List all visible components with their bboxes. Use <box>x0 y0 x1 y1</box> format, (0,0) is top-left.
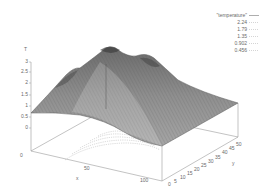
z-tick-2.5: 2.5 <box>21 68 28 74</box>
legend-entry-contour-2: 1.79 <box>237 26 247 32</box>
y-tick-50: 50 <box>236 141 242 147</box>
legend-entry-contour-1: 2.24 <box>237 19 247 25</box>
y-tick-15: 15 <box>187 170 193 176</box>
y-tick-35: 35 <box>215 154 221 160</box>
z-tick-0.5: 0.5 <box>21 113 28 119</box>
z-axis: T 3 2.5 2 1.5 1 0.5 0 <box>21 46 31 151</box>
y-tick-0: 0 <box>168 181 171 187</box>
z-tick-1: 1 <box>25 102 28 108</box>
z-axis-label: T <box>24 46 27 52</box>
legend-entry-contour-3: 1.35 <box>237 33 247 39</box>
y-tick-40: 40 <box>222 149 228 155</box>
z-tick-3: 3 <box>25 58 28 64</box>
surface-plot: "temperature" 2.24 1.79 1.35 0.902 0.456… <box>0 0 275 195</box>
legend-entry-contour-4: 0.902 <box>234 40 247 46</box>
x-axis-label: x <box>76 175 79 181</box>
y-tick-25: 25 <box>201 162 207 168</box>
z-tick-1.5: 1.5 <box>21 91 28 97</box>
y-tick-20: 20 <box>194 166 200 172</box>
x-axis: 0 50 100 x <box>20 152 149 183</box>
x-tick-50: 50 <box>84 165 90 171</box>
y-axis: 0 5 10 15 20 25 30 35 40 45 50 y <box>168 141 242 187</box>
surface <box>31 47 238 147</box>
y-tick-5: 5 <box>174 178 177 184</box>
z-tick-2: 2 <box>25 79 28 85</box>
y-axis-label: y <box>232 160 235 166</box>
legend-entry-temperature: "temperature" <box>216 12 247 18</box>
y-tick-45: 45 <box>229 145 235 151</box>
x-tick-100: 100 <box>140 177 149 183</box>
z-tick-0: 0 <box>25 124 28 130</box>
legend-entry-contour-5: 0.456 <box>234 47 247 53</box>
x-tick-0: 0 <box>20 152 23 158</box>
y-tick-10: 10 <box>180 174 186 180</box>
legend: "temperature" 2.24 1.79 1.35 0.902 0.456 <box>216 12 259 53</box>
y-tick-30: 30 <box>208 158 214 164</box>
